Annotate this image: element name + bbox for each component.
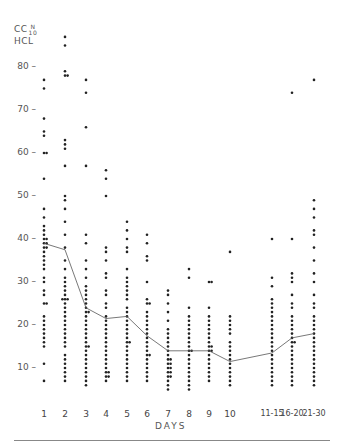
data-point xyxy=(43,294,46,297)
data-point xyxy=(105,276,108,279)
data-point xyxy=(64,74,67,77)
data-point xyxy=(291,371,294,374)
data-point xyxy=(271,307,274,310)
data-point xyxy=(208,337,211,340)
data-point xyxy=(64,208,67,211)
data-point xyxy=(229,380,232,383)
data-point xyxy=(146,281,149,284)
data-point xyxy=(126,328,129,331)
data-point xyxy=(271,238,274,241)
data-point xyxy=(188,332,191,335)
data-point xyxy=(271,328,274,331)
data-point xyxy=(188,354,191,357)
data-point xyxy=(229,315,232,318)
data-point xyxy=(271,350,274,353)
data-point xyxy=(313,208,316,211)
data-point xyxy=(313,328,316,331)
data-point xyxy=(64,147,67,150)
data-point xyxy=(126,371,129,374)
data-point xyxy=(229,324,232,327)
data-point xyxy=(64,143,67,146)
data-point xyxy=(66,298,69,301)
data-point xyxy=(271,332,274,335)
data-point xyxy=(105,289,108,292)
data-point xyxy=(64,328,67,331)
data-point xyxy=(43,225,46,228)
data-point xyxy=(105,307,108,310)
data-point xyxy=(85,311,88,314)
data-point xyxy=(313,229,316,232)
data-point xyxy=(271,354,274,357)
data-point xyxy=(64,371,67,374)
data-point xyxy=(105,272,108,275)
data-point xyxy=(105,380,108,383)
data-point xyxy=(313,216,316,219)
data-point xyxy=(271,319,274,322)
scatter-chart: CCN10 HCL 10 –20 –30 –40 –50 –60 –70 –80… xyxy=(0,0,340,448)
data-point xyxy=(229,341,232,344)
data-point xyxy=(313,371,316,374)
data-point xyxy=(107,371,110,374)
data-point xyxy=(64,345,67,348)
data-point xyxy=(208,375,211,378)
data-point xyxy=(146,337,149,340)
data-point xyxy=(64,311,67,314)
data-point xyxy=(188,324,191,327)
data-point xyxy=(105,169,108,172)
data-point xyxy=(313,345,316,348)
data-point xyxy=(126,337,129,340)
data-point xyxy=(85,384,88,387)
data-point xyxy=(167,289,170,292)
data-point xyxy=(126,285,129,288)
data-point xyxy=(105,371,108,374)
data-point xyxy=(167,337,170,340)
data-point xyxy=(126,229,129,232)
data-point xyxy=(128,341,131,344)
data-point xyxy=(43,264,46,267)
data-point xyxy=(85,362,88,365)
data-point xyxy=(188,367,191,370)
data-point xyxy=(126,221,129,224)
data-point xyxy=(291,276,294,279)
data-point xyxy=(146,380,149,383)
data-point xyxy=(229,358,232,361)
data-point xyxy=(85,328,88,331)
data-point xyxy=(291,367,294,370)
data-point xyxy=(85,375,88,378)
data-point xyxy=(313,246,316,249)
data-point xyxy=(85,92,88,95)
data-point xyxy=(126,281,129,284)
data-point xyxy=(64,319,67,322)
data-point xyxy=(229,354,232,357)
data-point xyxy=(105,302,108,305)
data-point xyxy=(167,341,170,344)
data-point xyxy=(126,380,129,383)
data-point xyxy=(43,79,46,82)
data-point xyxy=(43,87,46,90)
data-point xyxy=(313,294,316,297)
data-point xyxy=(146,362,149,365)
data-point xyxy=(271,285,274,288)
data-point xyxy=(64,233,67,236)
data-point xyxy=(64,380,67,383)
data-point xyxy=(64,337,67,340)
data-point xyxy=(229,345,232,348)
data-point xyxy=(229,371,232,374)
data-point xyxy=(210,281,213,284)
data-point xyxy=(291,350,294,353)
data-point xyxy=(313,324,316,327)
data-point xyxy=(313,380,316,383)
data-point xyxy=(43,324,46,327)
data-point xyxy=(43,229,46,232)
data-point xyxy=(146,259,149,262)
data-point xyxy=(43,315,46,318)
data-point xyxy=(64,298,67,301)
data-point xyxy=(313,233,316,236)
data-point xyxy=(188,307,191,310)
data-point xyxy=(126,307,129,310)
data-point xyxy=(169,367,172,370)
data-point xyxy=(229,319,232,322)
data-point xyxy=(64,354,67,357)
data-point xyxy=(43,380,46,383)
data-point xyxy=(313,358,316,361)
